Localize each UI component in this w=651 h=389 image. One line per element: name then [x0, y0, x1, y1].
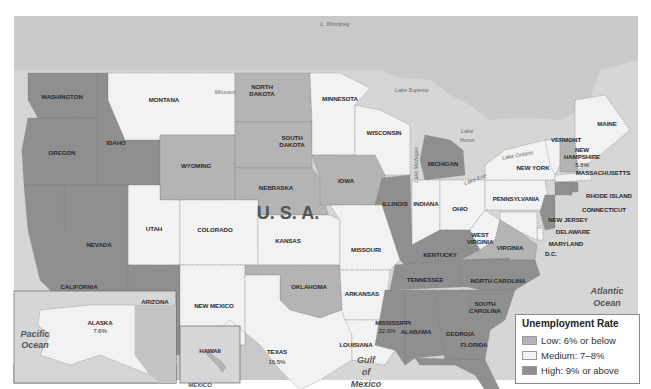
legend-title: Unemployment Rate [522, 318, 633, 329]
state-label-connecticut: CONNECTICUT [582, 206, 626, 213]
state-value-new-hampshire: 5.8% [575, 161, 589, 168]
lake-huron-label-1: Lake [461, 128, 473, 134]
state-label-michigan: MICHIGAN [428, 160, 459, 167]
state-connecticut[interactable] [555, 182, 572, 195]
legend-item-high: High: 9% or above [522, 363, 633, 378]
state-label-new-york: NEW YORK [516, 164, 550, 171]
legend-label-medium: Medium: 7–8% [541, 350, 604, 361]
lake-huron-label-2: Huron [460, 137, 475, 143]
state-label-north-dakota: NORTH [251, 83, 273, 90]
state-label-new-hampshire: NEW [575, 146, 589, 153]
legend-swatch-medium [522, 351, 537, 360]
gulf-label-3: Mexico [351, 379, 382, 389]
state-label-california: CALIFORNIA [60, 283, 98, 290]
state-label-wyoming: WYOMING [181, 162, 212, 169]
state-montana[interactable] [108, 73, 235, 140]
state-label-pennsylvania: PENNSYLVANIA [493, 195, 540, 202]
state-north-dakota[interactable] [235, 73, 312, 122]
lake-winnipeg-label: L. Winnipeg [321, 21, 351, 27]
lake-superior-label: Lake Superior [395, 87, 430, 93]
state-label-delaware: DELAWARE [556, 228, 590, 235]
state-label-minnesota: MINNESOTA [322, 95, 358, 102]
state-label-vermont: VERMONT [551, 136, 582, 143]
legend-item-medium: Medium: 7–8% [522, 348, 633, 363]
state-label-west-virginia: VIRGINIA [467, 238, 494, 245]
state-label-tennessee: TENNESSEE [407, 276, 444, 283]
atlantic-label-2: Ocean [593, 298, 621, 308]
legend-swatch-high [522, 366, 537, 375]
legend-swatch-low [522, 336, 537, 345]
state-label-west-virginia: WEST [471, 231, 489, 238]
state-label-ohio: OHIO [452, 205, 468, 212]
state-label-rhode-island: RHODE ISLAND [586, 192, 633, 199]
state-value-alaska: 7.6% [93, 327, 107, 334]
state-label-maine: MAINE [597, 120, 616, 127]
state-label-indiana: INDIANA [413, 200, 439, 207]
gulf-label-1: Gulf [357, 355, 376, 365]
state-delaware[interactable] [537, 228, 543, 240]
pacific-label-1: Pacific [20, 329, 49, 339]
state-label-washington: WASHINGTON [41, 93, 83, 100]
state-label-alaska: ALASKA [87, 319, 113, 326]
legend-label-low: Low: 6% or below [541, 335, 616, 346]
state-label-illinois: ILLINOIS [382, 200, 407, 207]
state-label-alabama: ALABAMA [401, 328, 432, 335]
state-label-kansas: KANSAS [275, 237, 301, 244]
pacific-label-2: Ocean [21, 340, 49, 350]
legend-item-low: Low: 6% or below [522, 333, 633, 348]
state-label-south-dakota: SOUTH [281, 134, 303, 141]
state-label-south-carolina: SOUTH [474, 300, 496, 307]
state-value-texas: 16.5% [268, 358, 286, 365]
state-label-hawaii: HAWAII [199, 347, 221, 354]
state-label-new-mexico: NEW MEXICO [194, 302, 234, 309]
state-label-nebraska: NEBRASKA [259, 184, 294, 191]
state-label-massachusetts: MASSACHUSETTS [576, 169, 630, 176]
state-label-utah: UTAH [146, 225, 163, 232]
legend: Unemployment Rate Low: 6% or below Mediu… [515, 314, 640, 384]
country-label: U. S. A. [257, 203, 319, 223]
state-label-arizona: ARIZONA [141, 298, 169, 305]
state-label-idaho: IDAHO [106, 139, 126, 146]
lake-michigan-label: Lake Michigan [413, 147, 419, 182]
state-label-oregon: OREGON [49, 149, 77, 156]
state-label-georgia: GEORGIA [446, 330, 475, 337]
state-label-florida: FLORIDA [461, 341, 488, 348]
state-label-texas: TEXAS [267, 348, 287, 355]
state-label-louisiana: LOUISIANA [339, 341, 373, 348]
state-label-mississippi: MISSISSIPPI [375, 319, 411, 326]
mexico-label: MEXICO [188, 382, 212, 388]
state-label-montana: MONTANA [149, 96, 180, 103]
atlantic-label-1: Atlantic [589, 286, 623, 296]
state-label-missouri: MISSOURI [351, 246, 381, 253]
state-value-mississippi: 22.6% [378, 327, 396, 334]
state-label-iowa: IOWA [338, 177, 355, 184]
state-label-south-dakota: DAKOTA [279, 141, 305, 148]
state-label-oklahoma: OKLAHOMA [291, 283, 327, 290]
state-label-nevada: NEVADA [86, 241, 112, 248]
state-label-new-jersey: NEW JERSEY [548, 216, 589, 223]
state-label-south-carolina: CAROLINA [469, 307, 501, 314]
state-label-dc: D.C. [545, 250, 557, 257]
state-label-new-hampshire: HAMPSHIRE [564, 153, 600, 160]
state-label-north-dakota: DAKOTA [249, 90, 275, 97]
gulf-label-2: of [362, 367, 371, 377]
state-label-north-carolina: NORTH CAROLINA [471, 277, 527, 284]
state-label-colorado: COLORADO [197, 226, 233, 233]
legend-label-high: High: 9% or above [541, 365, 619, 376]
state-label-virginia: VIRGINIA [497, 244, 524, 251]
state-label-maryland: MARYLAND [549, 240, 584, 247]
state-rhode-island[interactable] [572, 182, 578, 192]
state-label-wisconsin: WISCONSIN [367, 129, 402, 136]
state-label-arkansas: ARKANSAS [345, 290, 379, 297]
state-label-kentucky: KENTUCKY [423, 251, 458, 258]
missouri-river-label: Missouri [215, 89, 236, 95]
